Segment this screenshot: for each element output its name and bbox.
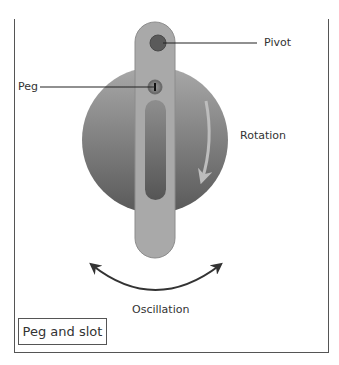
diagram-title-box: Peg and slot bbox=[18, 318, 107, 345]
rotation-label: Rotation bbox=[240, 129, 286, 142]
peg-label: Peg bbox=[18, 80, 38, 93]
oscillation-label: Oscillation bbox=[132, 303, 189, 316]
pivot-label: Pivot bbox=[264, 36, 291, 49]
oscillation-arrow-icon bbox=[92, 265, 220, 290]
slot bbox=[145, 100, 166, 200]
diagram-title: Peg and slot bbox=[23, 324, 103, 339]
